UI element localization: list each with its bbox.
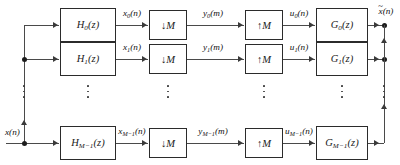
ellipsis-decimator-column — [167, 85, 170, 98]
ellipsis-output-bus — [383, 85, 386, 98]
synthesis-filter-g0: G0(z) — [316, 8, 368, 42]
analysis-filter-h0: H0(z) — [60, 8, 116, 42]
output-signal-label: ~x(n) — [379, 7, 394, 16]
signal-label-um1: uM−1(n) — [285, 127, 313, 137]
decimator-1-label: ↓M — [161, 54, 175, 65]
analysis-filter-h1: H1(z) — [60, 42, 116, 76]
arrowhead-into-h0 — [53, 22, 58, 28]
arrowhead-into-um1 — [238, 140, 243, 146]
ellipsis-expander-column — [263, 85, 266, 98]
arrowhead-into-u0 — [238, 22, 243, 28]
wire-input-riser-row0 — [24, 25, 25, 143]
synthesis-filter-g1: G1(z) — [316, 42, 368, 76]
filter-bank-diagram: H0(z) x0(n) ↓M y0(m) ↑M u0(n) G0(z) ~x(n… — [0, 0, 400, 165]
arrowhead-into-g0 — [309, 22, 314, 28]
arrowhead-into-u1 — [238, 56, 243, 62]
expander-m1: ↑M — [245, 128, 283, 158]
decimator-m1: ↓M — [149, 128, 187, 158]
expander-1: ↑M — [245, 44, 283, 74]
wire-d0-to-u0 — [187, 25, 244, 26]
signal-label-u1: u1(n) — [290, 43, 308, 53]
synthesis-filter-gm1: GM−1(z) — [316, 126, 368, 160]
arrowhead-into-h1 — [53, 56, 58, 62]
decimator-1: ↓M — [149, 44, 187, 74]
signal-label-xm1: xM−1(n) — [118, 127, 145, 137]
signal-label-y1: y1(m) — [203, 43, 223, 53]
analysis-filter-hm1: HM−1(z) — [60, 126, 116, 160]
arrowhead-input-bus-up — [21, 120, 27, 125]
arrowhead-into-summing-node-row1 — [374, 56, 379, 62]
junction-input-tap — [22, 141, 27, 146]
signal-label-ym1: yM−1(m) — [198, 127, 227, 137]
analysis-filter-hm1-label: HM−1(z) — [71, 137, 105, 150]
arrowhead-into-dm1 — [142, 140, 147, 146]
arrowhead-into-hm1 — [53, 140, 58, 146]
arrowhead-into-gm1 — [309, 140, 314, 146]
expander-0-label: ↑M — [257, 20, 271, 31]
signal-label-u0: u0(n) — [290, 9, 308, 19]
expander-0: ↑M — [245, 10, 283, 40]
analysis-filter-h1-label: H1(z) — [77, 53, 100, 66]
analysis-filter-h0-label: H0(z) — [77, 19, 100, 32]
synthesis-filter-g1-label: G1(z) — [331, 53, 354, 66]
ellipsis-synthesis-column — [341, 85, 344, 98]
arrowhead-bus-up-row1 — [381, 104, 387, 109]
wire-input-main-bus — [6, 143, 59, 144]
junction-input-row1 — [22, 57, 27, 62]
synthesis-filter-g0-label: G0(z) — [331, 19, 354, 32]
wire-dm1-to-um1 — [187, 143, 244, 144]
synthesis-filter-gm1-label: GM−1(z) — [325, 137, 359, 150]
arrowhead-bus-up-to-output — [381, 38, 387, 43]
signal-label-x0: x0(n) — [123, 9, 141, 19]
ellipsis-analysis-column — [87, 85, 90, 98]
decimator-m1-label: ↓M — [161, 138, 175, 149]
ellipsis-input-bus — [23, 85, 26, 98]
arrowhead-into-g1 — [309, 56, 314, 62]
arrowhead-into-d1 — [142, 56, 147, 62]
signal-label-x1: x1(n) — [123, 43, 141, 53]
expander-m1-label: ↑M — [257, 138, 271, 149]
arrowhead-into-output-node — [374, 22, 379, 28]
arrowhead-into-d0 — [142, 22, 147, 28]
decimator-0: ↓M — [149, 10, 187, 40]
decimator-0-label: ↓M — [161, 20, 175, 31]
expander-1-label: ↑M — [257, 54, 271, 65]
signal-label-y0: y0(m) — [203, 9, 223, 19]
input-signal-label: x(n) — [5, 128, 20, 137]
arrowhead-into-summing-bus-rowm1 — [374, 140, 379, 146]
wire-d1-to-u1 — [187, 59, 244, 60]
